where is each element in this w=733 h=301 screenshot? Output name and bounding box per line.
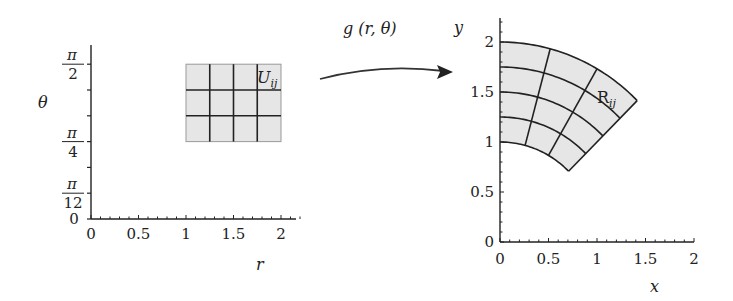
arrow-curve (320, 68, 444, 79)
theta-tick-label: 0 (69, 210, 79, 228)
r-tick-label: 1 (181, 225, 191, 243)
left-x-tick-labels: 00.511.52 (86, 225, 286, 243)
y-tick-label: 2 (484, 33, 494, 51)
mapping-arrow: g (r, θ) (320, 19, 453, 79)
right-plot-x-y: 00.511.52 00.511.52 x y Rij (453, 18, 699, 296)
x-tick-label: 1 (592, 250, 602, 268)
x-tick-label: 0 (495, 250, 505, 268)
y-tick-label: 0 (484, 233, 494, 251)
polar-mapping-diagram: 00.511.52 0π12π4π2 r θ Uij g (r, θ) 00.5… (0, 0, 733, 301)
svg-text:12: 12 (63, 194, 82, 212)
right-y-axis-label: y (453, 18, 464, 37)
theta-tick-fraction: π4 (62, 124, 84, 161)
left-y-axis-label: θ (38, 93, 48, 112)
y-tick-label: 0.5 (470, 183, 494, 201)
left-y-tick-labels: 0π12π4π2 (62, 46, 84, 228)
svg-text:π: π (66, 46, 78, 64)
right-x-tick-labels: 00.511.52 (495, 250, 699, 268)
svg-text:2: 2 (68, 65, 78, 83)
svg-text:4: 4 (68, 143, 78, 161)
region-R-ij (500, 42, 637, 171)
left-plot-r-theta: 00.511.52 0π12π4π2 r θ Uij (38, 45, 300, 274)
right-x-axis-label: x (650, 277, 659, 296)
y-tick-label: 1 (484, 133, 494, 151)
left-x-axis-label: r (256, 255, 265, 274)
theta-tick-fraction: π2 (62, 46, 84, 83)
r-tick-label: 0.5 (127, 225, 151, 243)
mapping-label: g (r, θ) (343, 19, 397, 38)
x-tick-label: 0.5 (537, 250, 561, 268)
arrowhead-icon (437, 65, 453, 79)
svg-text:π: π (66, 124, 78, 142)
theta-tick-fraction: π12 (62, 175, 84, 212)
svg-text:π: π (66, 175, 78, 193)
r-tick-label: 0 (86, 225, 96, 243)
r-tick-label: 2 (276, 225, 286, 243)
r-tick-label: 1.5 (222, 225, 246, 243)
x-tick-label: 2 (689, 250, 699, 268)
y-tick-label: 1.5 (470, 83, 494, 101)
region-R-fill (500, 42, 637, 171)
x-tick-label: 1.5 (634, 250, 658, 268)
right-y-tick-labels: 00.511.52 (470, 33, 494, 251)
